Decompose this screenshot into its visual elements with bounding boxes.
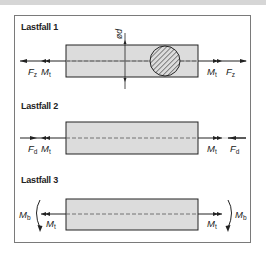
bending-moment-arrow-left-icon <box>37 200 43 232</box>
force-arrow-right-icon <box>240 59 247 63</box>
svg-text:Mt: Mt <box>41 143 51 155</box>
svg-text:Fz: Fz <box>28 66 37 78</box>
svg-text:Mt: Mt <box>207 218 217 230</box>
svg-text:Mt: Mt <box>207 143 217 155</box>
svg-text:Fd: Fd <box>230 143 240 155</box>
svg-text:Mb: Mb <box>235 209 247 221</box>
case-2-diagram: Fd Mt Mt Fd <box>20 122 246 155</box>
case-1-diagram: ød Fz Mt Mt Fz <box>20 29 247 89</box>
svg-text:Mb: Mb <box>19 209 31 221</box>
svg-text:Fz: Fz <box>226 66 235 78</box>
bending-moment-arrow-right-icon <box>226 200 232 232</box>
hatched-cross-section-icon <box>150 46 180 76</box>
svg-text:Fd: Fd <box>28 143 38 155</box>
svg-text:Mt: Mt <box>41 66 51 78</box>
svg-text:Mt: Mt <box>207 66 217 78</box>
diameter-label: ød <box>114 29 124 39</box>
load-case-diagram: ød Fz Mt Mt Fz Fd Mt Mt Fd <box>0 0 266 258</box>
force-arrow-right-icon <box>229 136 236 140</box>
svg-text:Mt: Mt <box>46 218 56 230</box>
force-arrow-left-icon <box>30 136 37 140</box>
case-3-diagram: Mb Mt Mt Mb <box>19 199 247 232</box>
shaft-bar <box>66 199 198 230</box>
force-arrow-left-icon <box>20 59 27 63</box>
